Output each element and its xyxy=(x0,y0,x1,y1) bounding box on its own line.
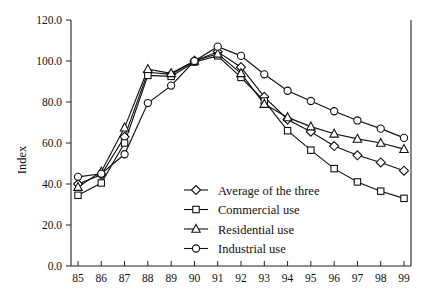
x-tick-label: 92 xyxy=(235,272,247,284)
data-point-marker xyxy=(308,147,314,153)
data-point-marker xyxy=(377,125,384,132)
data-point-marker xyxy=(145,72,151,78)
x-tick-label: 97 xyxy=(352,272,364,284)
legend-marker-square-icon xyxy=(193,206,199,212)
y-tick-label: 60.0 xyxy=(42,137,62,149)
data-point-marker xyxy=(401,195,407,201)
data-point-marker xyxy=(191,57,198,64)
data-point-marker xyxy=(354,117,361,124)
data-point-marker xyxy=(98,180,104,186)
data-point-marker xyxy=(121,151,128,158)
data-point-marker xyxy=(75,192,81,198)
data-point-marker xyxy=(74,173,81,180)
x-tick-label: 86 xyxy=(96,272,108,284)
data-point-marker xyxy=(307,97,314,104)
legend-marker-circle-icon xyxy=(192,245,199,252)
x-tick-label: 87 xyxy=(119,272,131,284)
y-tick-label: 120.0 xyxy=(36,14,62,26)
data-point-marker xyxy=(354,179,360,185)
legend-label: Residential use xyxy=(218,223,294,237)
data-point-marker xyxy=(378,188,384,194)
data-point-marker xyxy=(237,52,244,59)
y-tick-label: 20.0 xyxy=(42,219,62,231)
y-tick-label: 80.0 xyxy=(42,96,62,108)
data-point-marker xyxy=(284,87,291,94)
x-tick-label: 95 xyxy=(305,272,317,284)
chart-background xyxy=(0,0,427,300)
data-point-marker xyxy=(331,165,337,171)
x-tick-label: 94 xyxy=(282,272,294,284)
x-tick-label: 89 xyxy=(165,272,177,284)
data-point-marker xyxy=(261,71,268,78)
x-tick-label: 90 xyxy=(189,272,201,284)
x-tick-label: 98 xyxy=(375,272,387,284)
data-point-marker xyxy=(98,170,105,177)
chart-container: 0.020.040.060.080.0100.0120.0 8586878889… xyxy=(0,0,427,300)
x-tick-label: 88 xyxy=(142,272,154,284)
data-point-marker xyxy=(144,99,151,106)
y-tick-label: 100.0 xyxy=(36,55,62,67)
y-tick-label: 40.0 xyxy=(42,178,62,190)
legend-label: Average of the three xyxy=(218,184,320,198)
x-tick-label: 85 xyxy=(72,272,84,284)
legend-label: Commercial use xyxy=(218,203,300,217)
data-point-marker xyxy=(121,140,127,146)
data-point-marker xyxy=(214,43,221,50)
x-tick-label: 93 xyxy=(259,272,271,284)
data-point-marker xyxy=(331,108,338,115)
legend-label: Industrial use xyxy=(218,242,286,256)
y-axis-title: Index xyxy=(15,145,29,174)
x-tick-label: 96 xyxy=(328,272,340,284)
data-point-marker xyxy=(400,134,407,141)
data-point-marker xyxy=(284,128,290,134)
x-tick-label: 91 xyxy=(212,272,224,284)
line-chart: 0.020.040.060.080.0100.0120.0 8586878889… xyxy=(0,0,427,300)
data-point-marker xyxy=(168,82,175,89)
x-tick-label: 99 xyxy=(398,272,410,284)
y-tick-label: 0.0 xyxy=(48,260,63,272)
